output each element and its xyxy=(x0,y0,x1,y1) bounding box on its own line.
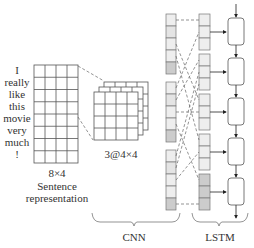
word-2: really xyxy=(0,76,34,88)
word-6: very xyxy=(0,124,34,136)
section-braces xyxy=(92,213,248,226)
lstm-cell-2 xyxy=(228,58,244,85)
word-1: I xyxy=(0,64,34,76)
sentence-caption-line2: representation xyxy=(14,192,100,204)
feature-maps xyxy=(94,82,148,140)
lstm-brace xyxy=(192,213,248,226)
cnn-group-1 xyxy=(166,14,176,74)
sentence-matrix xyxy=(34,65,78,163)
word-3: like xyxy=(0,88,34,100)
word-8: ! xyxy=(0,148,34,160)
word-4: this xyxy=(0,100,34,112)
sentence-caption-line1: Sentence xyxy=(20,180,94,192)
lstm-label: LSTM xyxy=(200,231,240,243)
cnn-group-2 xyxy=(166,82,176,142)
cnn-lstm-diagram xyxy=(0,0,254,248)
cnn-group-3 xyxy=(166,150,176,210)
lstm-input-column xyxy=(199,14,210,210)
sentence-dims-label: 8×4 xyxy=(34,167,80,179)
lstm-cell-3 xyxy=(228,98,244,125)
feature-maps-label: 3@4×4 xyxy=(96,148,146,160)
feature-map-1 xyxy=(94,92,138,140)
word-5: movie xyxy=(0,112,34,124)
lstm-cell-1 xyxy=(228,18,244,45)
lstm-input-arrows xyxy=(210,32,226,192)
cnn-label: CNN xyxy=(114,231,154,243)
lstm-cell-5 xyxy=(228,178,244,205)
cnn-output-column xyxy=(166,14,176,210)
reshape-lines xyxy=(176,20,199,204)
word-7: much xyxy=(0,136,34,148)
lstm-cell-4 xyxy=(228,138,244,165)
cnn-brace xyxy=(92,213,180,226)
